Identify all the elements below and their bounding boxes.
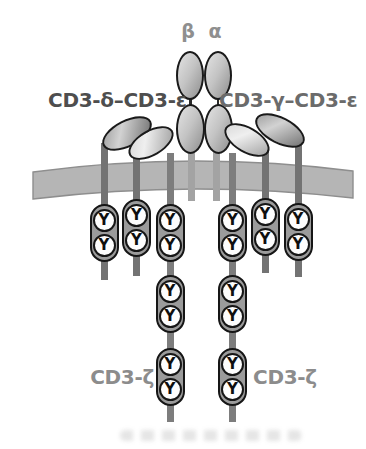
tyrosine-residue: Y <box>159 234 182 257</box>
cd3-zeta-left-itam-1: Y Y <box>156 204 185 262</box>
tyrosine-residue: Y <box>159 280 182 303</box>
tyrosine-residue: Y <box>254 203 277 226</box>
cd3-zeta-right-itam-3: Y Y <box>218 348 247 406</box>
tyrosine-residue: Y <box>159 305 182 328</box>
cd3-epsilon-left-itam: Y Y <box>122 199 151 257</box>
cd3-delta-epsilon-label: CD3-δ–CD3-ε <box>48 88 180 112</box>
tyrosine-residue: Y <box>93 234 116 257</box>
tyrosine-residue: Y <box>159 378 182 401</box>
tcr-alpha-label: α <box>203 20 227 42</box>
tyrosine-residue: Y <box>254 228 277 251</box>
tcr-beta-stalk <box>188 149 195 201</box>
tyrosine-residue: Y <box>221 378 244 401</box>
tyrosine-residue: Y <box>159 353 182 376</box>
tcr-alpha-stalk <box>213 149 220 201</box>
cd3-gamma-itam: Y Y <box>251 198 280 256</box>
tyrosine-residue: Y <box>287 233 310 256</box>
tyrosine-residue: Y <box>221 209 244 232</box>
cd3-zeta-left-itam-2: Y Y <box>156 275 185 333</box>
cd3-epsilon-right-itam: Y Y <box>284 203 313 261</box>
tyrosine-residue: Y <box>125 204 148 227</box>
cd3-zeta-left-itam-3: Y Y <box>156 348 185 406</box>
tyrosine-residue: Y <box>221 280 244 303</box>
tyrosine-residue: Y <box>221 353 244 376</box>
tyrosine-residue: Y <box>221 305 244 328</box>
cd3-zeta-right-itam-1: Y Y <box>218 204 247 262</box>
tcr-beta-label: β <box>176 20 200 42</box>
tcr-cd3-complex-figure: Y Y Y Y Y Y Y Y Y Y Y Y Y Y Y Y Y Y Y Y … <box>0 0 366 449</box>
cd3-zeta-left-label: CD3-ζ <box>90 365 154 389</box>
tyrosine-residue: Y <box>159 209 182 232</box>
tyrosine-residue: Y <box>221 234 244 257</box>
cd3-gamma-epsilon-label: CD3-γ–CD3-ε <box>219 88 351 112</box>
cd3-zeta-right-itam-2: Y Y <box>218 275 247 333</box>
tyrosine-residue: Y <box>93 209 116 232</box>
tyrosine-residue: Y <box>125 229 148 252</box>
cd3-delta-itam: Y Y <box>90 204 119 262</box>
cd3-zeta-right-label: CD3-ζ <box>253 365 317 389</box>
tyrosine-residue: Y <box>287 208 310 231</box>
